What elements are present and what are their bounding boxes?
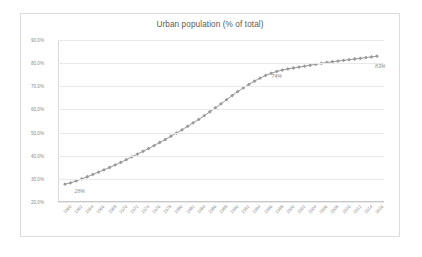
x-axis-tick-label: 2002 <box>296 204 306 214</box>
x-axis-tick-label: 1998 <box>274 204 284 214</box>
data-point-marker <box>303 64 307 68</box>
chart-title: Urban population (% of total) <box>21 20 399 29</box>
x-axis-tick-label: 1960 <box>62 204 72 214</box>
data-point-marker <box>375 54 379 58</box>
data-label-74pct: 74% <box>272 73 282 79</box>
data-label-28pct: 28% <box>75 188 85 194</box>
y-axis-tick-label: 60.0% <box>10 107 44 112</box>
y-axis-tick-label: 30.0% <box>10 176 44 181</box>
chart-frame: Urban population (% of total) 90.0%80.0%… <box>20 13 400 237</box>
data-point-marker <box>258 76 262 80</box>
y-axis-tick-label: 80.0% <box>10 61 44 66</box>
data-point-marker <box>286 67 290 71</box>
x-axis-tick-label: 1976 <box>151 204 161 214</box>
data-point-marker <box>342 58 346 62</box>
data-point-marker <box>119 161 123 165</box>
x-axis-tick-label: 1990 <box>229 204 239 214</box>
series-line <box>65 56 377 184</box>
gridline <box>58 109 384 110</box>
x-axis-tick-label: 1974 <box>140 204 150 214</box>
x-axis-tick-label: 1970 <box>118 204 128 214</box>
x-axis-tick-label: 1986 <box>207 204 217 214</box>
series-line-urban-population <box>58 40 384 202</box>
x-axis-tick-label: 1964 <box>84 204 94 214</box>
data-point-marker <box>158 141 162 145</box>
data-point-marker <box>63 182 67 186</box>
y-axis-tick-label: 70.0% <box>10 84 44 89</box>
data-point-marker <box>108 166 112 170</box>
data-point-marker <box>364 56 368 60</box>
data-point-marker <box>91 173 95 177</box>
data-point-marker <box>69 181 73 185</box>
x-axis-tick-label: 1962 <box>73 204 83 214</box>
gridline <box>58 156 384 157</box>
data-point-marker <box>370 55 374 59</box>
x-axis-tick-label: 1982 <box>185 204 195 214</box>
data-point-marker <box>347 58 351 62</box>
data-point-marker <box>147 147 151 151</box>
x-axis-tick-label: 2000 <box>285 204 295 214</box>
x-axis-tick-label: 2008 <box>330 204 340 214</box>
x-axis-tick-label: 1980 <box>174 204 184 214</box>
gridline <box>58 86 384 87</box>
gridline <box>58 40 384 41</box>
y-axis-line <box>58 40 59 202</box>
data-label-83pct: 83% <box>375 63 385 69</box>
x-axis-tick-label: 1988 <box>218 204 228 214</box>
x-axis-tick-label: 1994 <box>252 204 262 214</box>
data-point-marker <box>97 170 101 174</box>
gridline <box>58 202 384 203</box>
x-axis-tick-labels: 1960196219641966196819701972197419761978… <box>58 204 384 250</box>
gridline <box>58 179 384 180</box>
x-axis-tick-label: 2006 <box>318 204 328 214</box>
y-axis-tick-label: 40.0% <box>10 153 44 158</box>
y-axis-tick-label: 50.0% <box>10 130 44 135</box>
data-point-marker <box>280 68 284 72</box>
gridline <box>58 63 384 64</box>
data-point-marker <box>358 56 362 60</box>
x-axis-tick-label: 1984 <box>196 204 206 214</box>
data-point-marker <box>113 163 117 167</box>
x-axis-tick-label: 2014 <box>363 204 373 214</box>
gridline <box>58 133 384 134</box>
data-point-marker <box>264 74 268 78</box>
data-point-marker <box>141 149 145 153</box>
x-axis-tick-label: 1966 <box>96 204 106 214</box>
x-axis-tick-label: 1968 <box>107 204 117 214</box>
data-point-marker <box>152 144 156 148</box>
x-axis-tick-label: 2004 <box>307 204 317 214</box>
x-axis-tick-label: 2016 <box>374 204 384 214</box>
data-point-marker <box>124 158 128 162</box>
data-point-marker <box>292 66 296 70</box>
x-axis-tick-label: 1996 <box>263 204 273 214</box>
plot-area: 90.0%80.0%70.0%60.0%50.0%40.0%30.0%20.0% <box>58 40 384 202</box>
x-axis-tick-label: 1992 <box>240 204 250 214</box>
x-axis-tick-label: 2010 <box>341 204 351 214</box>
x-axis-tick-label: 2012 <box>352 204 362 214</box>
data-point-marker <box>297 65 301 69</box>
x-axis-tick-label: 1972 <box>129 204 139 214</box>
y-axis-tick-label: 20.0% <box>10 200 44 205</box>
data-point-marker <box>353 57 357 61</box>
x-axis-tick-label: 1978 <box>162 204 172 214</box>
data-point-marker <box>102 168 106 172</box>
y-axis-tick-label: 90.0% <box>10 38 44 43</box>
